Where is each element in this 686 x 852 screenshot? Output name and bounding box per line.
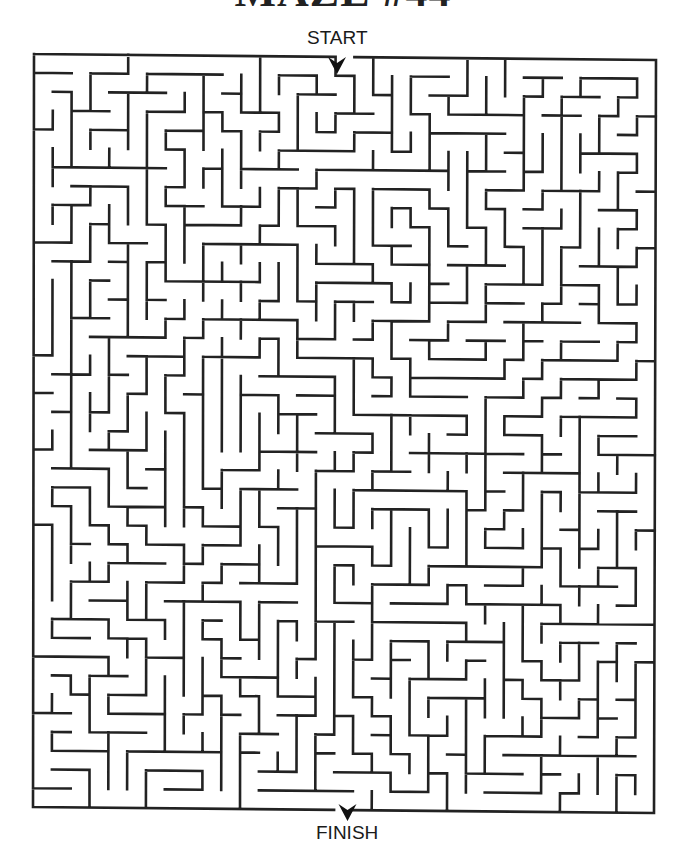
start-arrow-icon	[328, 57, 346, 74]
maze-wall-paths	[33, 54, 656, 813]
maze-grid[interactable]	[0, 0, 686, 852]
finish-arrow-icon	[339, 804, 357, 821]
maze-walls	[33, 54, 656, 813]
